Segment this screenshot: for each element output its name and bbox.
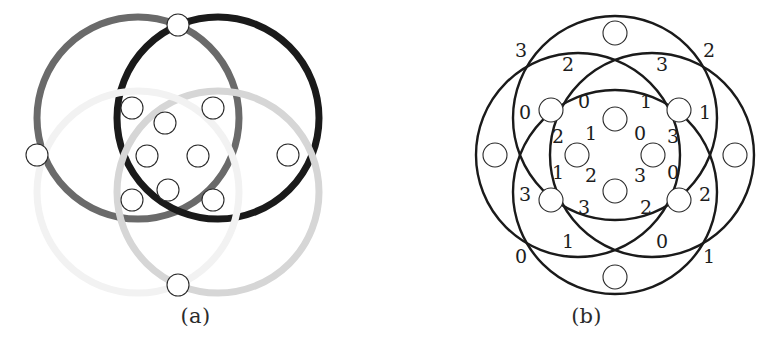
- vertex-ring-lr: [667, 188, 691, 212]
- label-right-arc-lower: 2: [699, 183, 711, 205]
- vertex-inner-bottom: [603, 179, 627, 203]
- panel-a-caption: (a): [0, 304, 391, 328]
- vertex-core-right: [187, 145, 209, 167]
- vertex-top: [167, 14, 189, 36]
- vertex-inner-ll: [121, 189, 143, 211]
- vertex-inner-ul: [121, 97, 143, 119]
- vertex-bottom: [167, 274, 189, 296]
- label-inner-nw-outer: 2: [552, 125, 564, 147]
- label-inner-ne-inner: 0: [634, 122, 646, 144]
- label-outer-bottom-left: 0: [515, 245, 527, 267]
- vertex-outer-left: [483, 143, 507, 167]
- vertex-outer-right: [723, 143, 747, 167]
- vertex-ring-ul: [539, 98, 563, 122]
- label-inner-nw-inner: 1: [585, 122, 597, 144]
- vertex-outer-bottom: [603, 265, 627, 289]
- panel-b-caption: (b): [391, 304, 782, 328]
- vertex-group-a: [26, 14, 299, 296]
- vertex-ring-ur: [667, 98, 691, 122]
- vertex-inner-ur: [202, 97, 224, 119]
- vertex-inner-right: [641, 143, 665, 167]
- vertex-inner-lr: [202, 189, 224, 211]
- label-ring-bottom-right: 2: [640, 196, 652, 218]
- label-outer-bottom-right: 1: [703, 245, 715, 267]
- panel-b-diagram: 320123100312013221031230: [391, 0, 782, 312]
- label-left-arc-lower: 3: [519, 183, 531, 205]
- vertex-inner-left: [565, 143, 589, 167]
- vertex-ring-ll: [539, 188, 563, 212]
- label-inner-sw-outer: 1: [552, 161, 564, 183]
- label-inner-se-outer: 0: [667, 161, 679, 183]
- label-outer-top-left: 3: [515, 39, 527, 61]
- vertex-inner-top: [603, 107, 627, 131]
- label-outer-top-right: 2: [703, 39, 715, 61]
- panel-a-diagram: [0, 0, 391, 312]
- label-upper-arc-left: 2: [562, 53, 574, 75]
- panel-b: 320123100312013221031230 (b): [391, 0, 782, 357]
- label-inner-se-inner: 3: [634, 164, 646, 186]
- vertex-core-top: [154, 112, 176, 134]
- label-right-arc-upper: 1: [699, 101, 711, 123]
- label-inner-sw-inner: 2: [585, 164, 597, 186]
- label-ring-bottom-left: 3: [578, 196, 590, 218]
- label-lower-arc-left: 1: [562, 230, 574, 252]
- figure-root: (a) 320123100312013221031230 (b): [0, 0, 782, 357]
- edge-label-group-b: 320123100312013221031230: [515, 39, 715, 267]
- vertex-right: [277, 144, 299, 166]
- vertex-core-bottom: [157, 179, 179, 201]
- label-upper-arc-right: 3: [656, 53, 668, 75]
- label-left-arc-upper: 0: [519, 101, 531, 123]
- vertex-core-left: [136, 145, 158, 167]
- label-ring-top-left: 0: [578, 90, 590, 112]
- label-ring-top-right: 1: [640, 90, 652, 112]
- vertex-left: [26, 144, 48, 166]
- panel-a: (a): [0, 0, 391, 357]
- label-inner-ne-outer: 3: [667, 125, 679, 147]
- label-lower-arc-right: 0: [656, 230, 668, 252]
- vertex-outer-top: [603, 21, 627, 45]
